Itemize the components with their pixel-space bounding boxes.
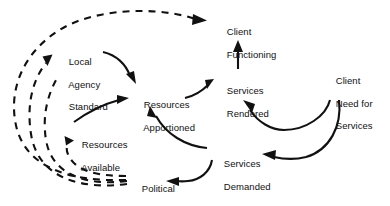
diagram-canvas-container: Client Functioning Local Agency Standard… (0, 0, 390, 206)
node-services-rendered-line1: Services (227, 85, 264, 96)
node-local-agency-standard-line2: Agency (68, 79, 100, 90)
node-services-rendered[interactable]: Services Rendered (216, 74, 269, 130)
node-client-need-for-services-line3: Services (336, 120, 373, 131)
node-local-agency-standard[interactable]: Local Agency Standard (58, 45, 108, 123)
node-political-pressure[interactable]: Political Pressure (131, 172, 180, 206)
node-client-functioning-line2: Functioning (227, 49, 277, 60)
node-services-demanded[interactable]: Services Demanded (213, 147, 271, 203)
node-client-need-for-services-line1: Client (336, 75, 361, 86)
node-client-need-for-services-line2: Need for (336, 98, 373, 109)
node-resources-apportioned[interactable]: Resources Apportioned (133, 88, 195, 144)
arrowhead-local-agency-standard-dashed (43, 55, 53, 67)
arrowhead-client-functioning-dashed (192, 14, 207, 25)
node-resources-available[interactable]: Resources Available (71, 128, 128, 184)
edge-path-demanded-pressure (177, 160, 212, 181)
node-local-agency-standard-line3: Standard (69, 101, 108, 112)
arrowhead-resources-apportioned-from-standard (126, 71, 136, 84)
arrowhead-resources-apportioned-from-available (117, 95, 129, 104)
edge-local-agency-standard-to-resources-apportioned (103, 52, 136, 84)
node-resources-apportioned-line2: Apportioned (143, 122, 195, 133)
node-client-functioning[interactable]: Client Functioning (216, 15, 276, 71)
node-political-pressure-line1: Political (142, 183, 175, 194)
node-services-demanded-line2: Demanded (224, 181, 271, 192)
node-resources-available-line1: Resources (82, 139, 128, 150)
node-services-rendered-line2: Rendered (227, 108, 269, 119)
node-local-agency-standard-line1: Local (69, 56, 92, 67)
node-services-demanded-line1: Services (224, 158, 261, 169)
node-resources-apportioned-line1: Resources (144, 99, 190, 110)
node-resources-available-line2: Available (81, 162, 120, 173)
node-client-need-for-services[interactable]: Client Need for Services (325, 64, 373, 142)
node-client-functioning-line1: Client (227, 26, 252, 37)
